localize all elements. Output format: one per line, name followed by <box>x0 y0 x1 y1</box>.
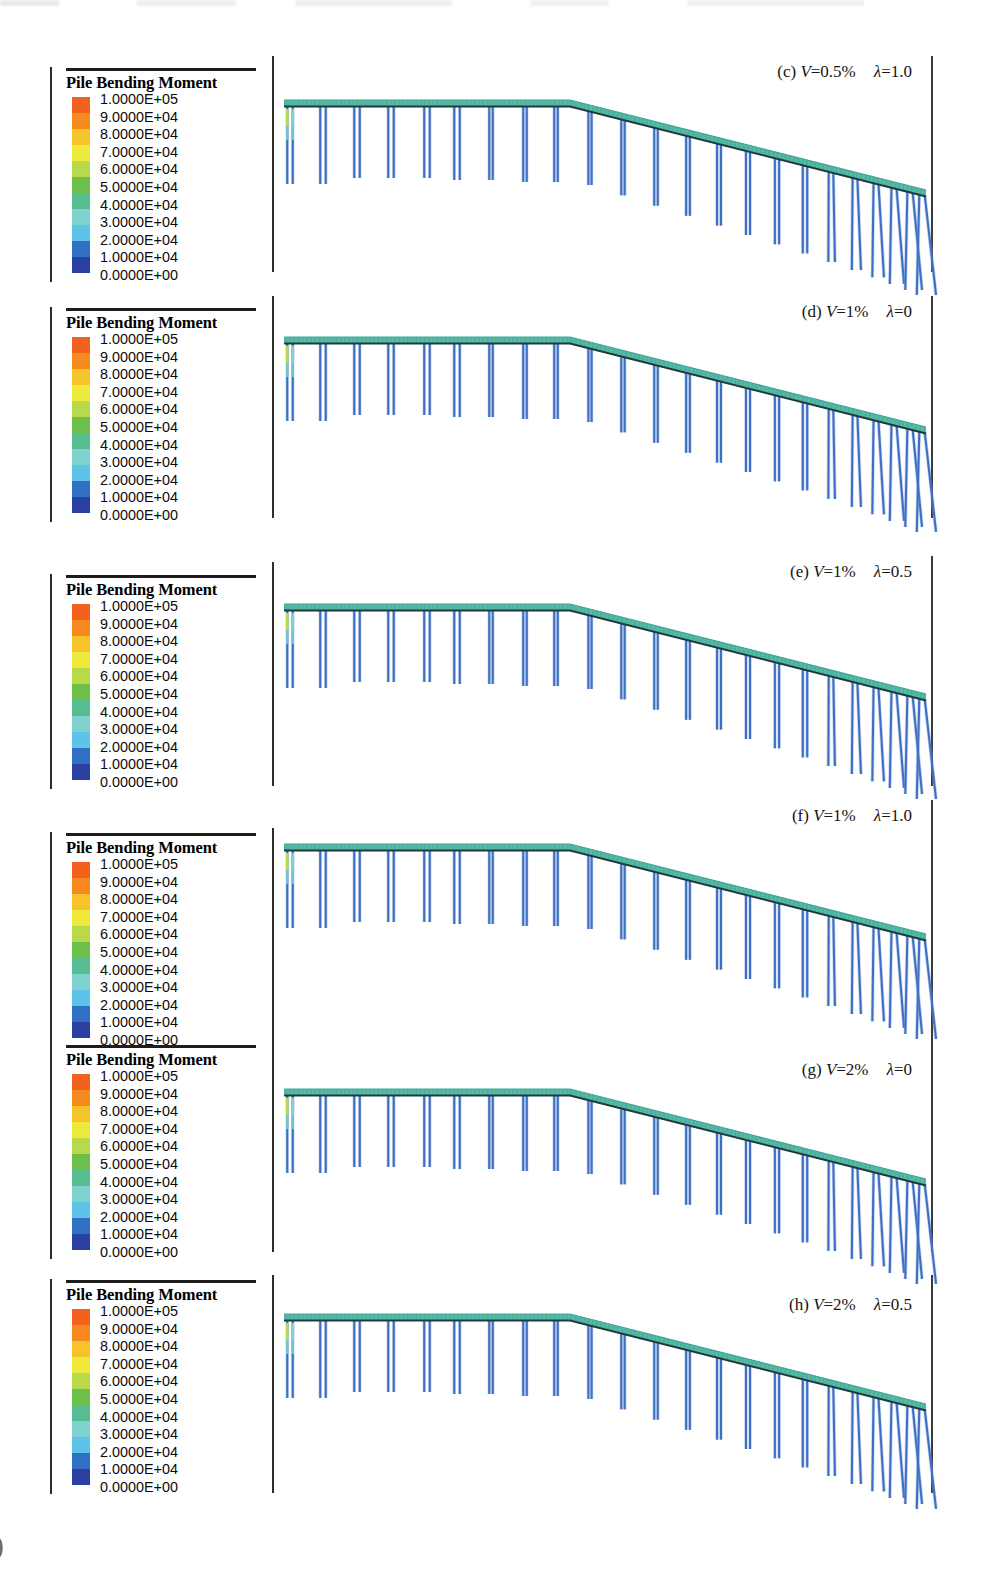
color-swatch <box>72 401 90 417</box>
caption-lambda-value: =1.0 <box>881 806 912 825</box>
color-swatch <box>72 748 90 764</box>
color-swatch <box>72 958 90 974</box>
caption-v-value: =1% <box>824 806 856 825</box>
color-bar-ticks: 1.0000E+059.0000E+048.0000E+047.0000E+04… <box>100 1303 250 1497</box>
color-bar-tick-label: 1.0000E+04 <box>100 1014 250 1032</box>
color-swatch <box>72 193 90 209</box>
color-swatch <box>72 974 90 990</box>
color-swatch <box>72 1469 90 1485</box>
color-bar <box>72 862 90 1038</box>
legend-top-rule <box>66 1280 256 1283</box>
color-bar-tick-label: 5.0000E+04 <box>100 179 250 197</box>
color-bar-tick-label: 4.0000E+04 <box>100 197 250 215</box>
color-bar-tick-label: 6.0000E+04 <box>100 401 250 419</box>
caption-v-symbol: V <box>813 562 823 581</box>
color-swatch <box>72 1170 90 1186</box>
color-bar <box>72 97 90 273</box>
color-swatch <box>72 700 90 716</box>
color-bar-tick-label: 9.0000E+04 <box>100 616 250 634</box>
color-swatch <box>72 1154 90 1170</box>
page-artifact-bottom-left: ) <box>0 1528 4 1562</box>
color-bar-tick-label: 6.0000E+04 <box>100 1373 250 1391</box>
color-bar-ticks: 1.0000E+059.0000E+048.0000E+047.0000E+04… <box>100 331 250 525</box>
color-bar-tick-label: 2.0000E+04 <box>100 1444 250 1462</box>
color-swatch <box>72 257 90 273</box>
color-swatch <box>72 942 90 958</box>
color-bar-tick-label: 0.0000E+00 <box>100 507 250 525</box>
color-swatch <box>72 1218 90 1234</box>
color-swatch <box>72 145 90 161</box>
color-swatch <box>72 990 90 1006</box>
color-bar-tick-label: 4.0000E+04 <box>100 437 250 455</box>
color-bar-tick-label: 2.0000E+04 <box>100 1209 250 1227</box>
caption-lambda-symbol: λ <box>887 302 894 321</box>
color-swatch <box>72 1090 90 1106</box>
caption-v-symbol: V <box>800 62 810 81</box>
color-swatch <box>72 129 90 145</box>
color-swatch <box>72 433 90 449</box>
color-bar <box>72 1074 90 1250</box>
color-bar-tick-label: 7.0000E+04 <box>100 1356 250 1374</box>
color-bar-tick-label: 2.0000E+04 <box>100 472 250 490</box>
color-swatch <box>72 1234 90 1250</box>
color-swatch <box>72 1186 90 1202</box>
color-bar-tick-label: 6.0000E+04 <box>100 926 250 944</box>
color-bar-tick-label: 0.0000E+00 <box>100 1479 250 1497</box>
color-swatch <box>72 764 90 780</box>
legend-left-rule <box>50 307 52 522</box>
color-swatch <box>72 1389 90 1405</box>
color-bar-tick-label: 5.0000E+04 <box>100 419 250 437</box>
color-bar <box>72 604 90 780</box>
color-swatch <box>72 732 90 748</box>
color-swatch <box>72 684 90 700</box>
panel-caption-d: (d) V=1%λ=0 <box>0 302 912 322</box>
color-bar-tick-label: 0.0000E+00 <box>100 774 250 792</box>
color-bar-tick-label: 7.0000E+04 <box>100 909 250 927</box>
color-bar-tick-label: 3.0000E+04 <box>100 721 250 739</box>
color-swatch <box>72 1405 90 1421</box>
legend-top-rule <box>66 1045 256 1048</box>
color-bar-tick-label: 9.0000E+04 <box>100 1086 250 1104</box>
color-bar-tick-label: 6.0000E+04 <box>100 161 250 179</box>
color-swatch <box>72 369 90 385</box>
color-swatch <box>72 1106 90 1122</box>
color-swatch <box>72 241 90 257</box>
color-bar-tick-label: 9.0000E+04 <box>100 874 250 892</box>
legend-top-rule <box>66 833 256 836</box>
color-swatch <box>72 1341 90 1357</box>
color-bar-tick-label: 3.0000E+04 <box>100 454 250 472</box>
caption-lambda-value: =1.0 <box>881 62 912 81</box>
caption-index: (e) <box>790 562 809 581</box>
color-bar-tick-label: 0.0000E+00 <box>100 267 250 285</box>
bridge-model-h <box>278 1300 938 1480</box>
color-swatch <box>72 97 90 113</box>
legend-left-rule <box>50 832 52 1047</box>
caption-index: (f) <box>792 806 809 825</box>
color-bar-tick-label: 2.0000E+04 <box>100 739 250 757</box>
color-bar <box>72 1309 90 1485</box>
color-bar-tick-label: 1.0000E+05 <box>100 856 250 874</box>
color-bar-tick-label: 1.0000E+04 <box>100 249 250 267</box>
color-bar-tick-label: 9.0000E+04 <box>100 1321 250 1339</box>
color-bar-tick-label: 3.0000E+04 <box>100 979 250 997</box>
color-swatch <box>72 465 90 481</box>
color-bar-tick-label: 2.0000E+04 <box>100 997 250 1015</box>
color-bar-tick-label: 1.0000E+04 <box>100 1226 250 1244</box>
color-bar-tick-label: 8.0000E+04 <box>100 1103 250 1121</box>
color-swatch <box>72 636 90 652</box>
color-swatch <box>72 1202 90 1218</box>
color-bar-tick-label: 4.0000E+04 <box>100 1409 250 1427</box>
color-bar-tick-label: 5.0000E+04 <box>100 944 250 962</box>
legend-left-rule <box>50 574 52 789</box>
color-bar-tick-label: 3.0000E+04 <box>100 1191 250 1209</box>
color-bar-tick-label: 7.0000E+04 <box>100 1121 250 1139</box>
color-bar-tick-label: 8.0000E+04 <box>100 891 250 909</box>
color-bar-tick-label: 6.0000E+04 <box>100 1138 250 1156</box>
color-swatch <box>72 497 90 513</box>
color-swatch <box>72 652 90 668</box>
color-swatch <box>72 385 90 401</box>
color-bar-tick-label: 0.0000E+00 <box>100 1244 250 1262</box>
color-bar-tick-label: 9.0000E+04 <box>100 109 250 127</box>
color-swatch <box>72 1421 90 1437</box>
color-swatch <box>72 1357 90 1373</box>
